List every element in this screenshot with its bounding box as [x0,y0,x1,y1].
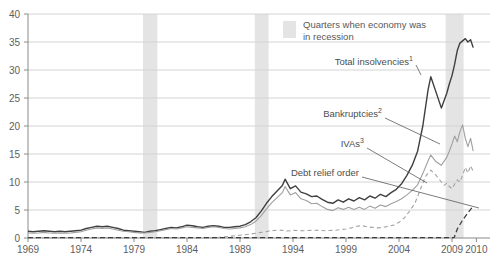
series-total-insolvencies [28,39,473,233]
y-tick-label: 35 [9,37,21,48]
annotation-bankruptcies-label: Bankruptcies [323,108,378,119]
x-tick-label: 2009 [441,244,464,255]
x-tick-label: 1974 [70,244,93,255]
x-tick-label: 2004 [388,244,411,255]
recession-legend-label: Quarters when economy was in recession [303,19,428,43]
y-tick-label: 15 [9,149,21,160]
x-tick-label: 1999 [335,244,358,255]
y-tick-label: 0 [14,233,20,244]
annotation-leader-line [367,148,427,183]
y-tick-label: 25 [9,93,21,104]
annotation-ivas-label: IVAs [341,138,360,149]
x-tick-label: 1994 [282,244,305,255]
insolvencies-chart: 0510152025303540196919741979198419891994… [0,0,496,271]
x-tick-label: 1984 [176,244,199,255]
annotation-total-insolvencies-label: Total insolvencies [335,56,409,67]
annotation-debt-relief-order: Debt relief order [291,167,359,178]
x-tick-label: 1969 [17,244,40,255]
y-tick-label: 20 [9,121,21,132]
recession-swatch [283,21,296,38]
y-tick-label: 40 [9,9,21,20]
annotation-debt-relief-order-label: Debt relief order [291,167,359,178]
x-tick-label: 1989 [229,244,252,255]
y-tick-label: 10 [9,177,21,188]
footnote-marker-2: 2 [378,107,382,114]
x-tick-label: 2010 [465,244,488,255]
footnote-marker-3: 3 [360,137,364,144]
y-tick-label: 5 [14,205,20,216]
footnote-marker-1: 1 [409,55,413,62]
x-tick-label: 1979 [123,244,146,255]
recession-legend: Quarters when economy was in recession [283,19,443,43]
series-bankruptcies [28,125,473,233]
annotation-ivas: IVAs3 [341,138,364,149]
annotation-total-insolvencies: Total insolvencies1 [335,56,413,67]
y-tick-label: 30 [9,65,21,76]
annotation-bankruptcies: Bankruptcies2 [323,108,382,119]
annotation-leader-line [385,118,440,144]
